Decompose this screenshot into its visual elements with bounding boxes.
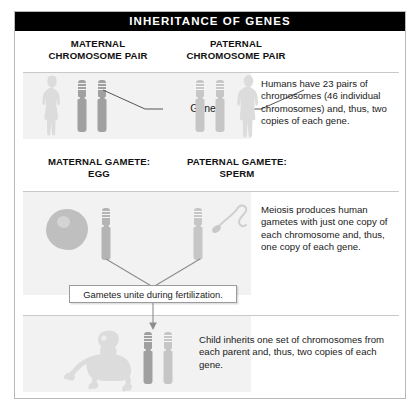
- maternal-female-silhouette: [39, 75, 65, 137]
- egg-cell: [46, 209, 88, 250]
- paternal-chromosome-1: [193, 80, 207, 132]
- maternal-gamete-chromosome: [99, 208, 113, 260]
- child-silhouette: [57, 330, 135, 386]
- figure-title: INHERITANCE OF GENES: [129, 16, 290, 28]
- child-chromosome-paternal: [161, 332, 175, 384]
- paternal-gamete-header: PATERNAL GAMETE: SPERM: [161, 156, 313, 179]
- child-chromosome-maternal: [141, 332, 155, 384]
- fertilization-callout: Gametes unite during fertilization.: [69, 285, 237, 303]
- section-two-caption: Meiosis produces human gametes with just…: [261, 204, 397, 254]
- maternal-chromosome-pair-header: MATERNAL CHROMOSOME PAIR: [23, 38, 173, 61]
- paternal-gamete-chromosome: [191, 208, 205, 260]
- maternal-gamete-header: MATERNAL GAMETE: EGG: [23, 156, 175, 179]
- section-three-caption: Child inherits one set of chromosomes fr…: [199, 334, 395, 371]
- paternal-chromosome-2: [213, 80, 227, 132]
- paternal-chromosome-pair-header: PATERNAL CHROMOSOME PAIR: [161, 38, 311, 61]
- section-one-caption: Humans have 23 pairs of chromosomes (46 …: [261, 78, 397, 128]
- figure-frame: INHERITANCE OF GENES MATERNAL CHROMOSOME…: [14, 11, 406, 399]
- sperm-cell: [209, 202, 251, 240]
- paternal-male-silhouette: [234, 74, 263, 138]
- maternal-chromosome-1: [75, 80, 89, 132]
- egg-nucleus: [57, 216, 70, 228]
- fertilization-callout-text: Gametes unite during fertilization.: [83, 289, 223, 300]
- figure-title-banner: INHERITANCE OF GENES: [15, 12, 405, 31]
- fertilization-down-arrow: [145, 303, 161, 331]
